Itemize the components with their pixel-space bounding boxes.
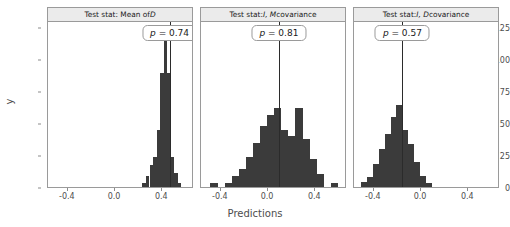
x-axis-tick-mark <box>114 188 115 191</box>
strip-suffix: covariance <box>276 10 316 19</box>
plot-area: p = 0.81 <box>200 22 346 188</box>
p-value-text: = 0.74 <box>156 28 189 38</box>
facet-strip-title: Test stat: I, M covariance <box>200 7 346 22</box>
p-value-label: p = 0.74 <box>142 25 193 41</box>
x-axis-tick-label: 0.4 <box>461 192 474 201</box>
observed-statistic-line <box>402 22 403 187</box>
x-axis-tick-label: 0.0 <box>261 192 274 201</box>
strip-prefix: Test stat: Mean of <box>84 10 150 19</box>
histogram-bar <box>267 115 274 187</box>
histogram-bars <box>354 22 498 187</box>
y-axis-tick-mark <box>38 92 41 93</box>
histogram-bar <box>178 183 182 187</box>
histogram-bars <box>201 22 345 187</box>
facet-panel: Test stat: I, D covariancep = 0.57 <box>353 7 499 188</box>
p-value-text: = 0.81 <box>265 28 298 38</box>
histogram-bar <box>331 183 338 187</box>
observed-statistic-line <box>170 22 171 187</box>
x-axis-tick-mark <box>373 188 374 191</box>
strip-statistic-symbol: I, D <box>416 10 429 19</box>
y-axis-tick-mark <box>38 188 41 189</box>
p-value-label: p = 0.57 <box>375 25 430 41</box>
histogram-bar <box>426 183 432 187</box>
y-axis-label: y <box>4 95 15 109</box>
x-axis-tick-label: -0.4 <box>59 192 75 201</box>
x-axis-tick-mark <box>314 188 315 191</box>
y-axis-tick-mark <box>38 60 41 61</box>
p-value-label: p = 0.81 <box>251 25 306 41</box>
figure-histogram-facets: y Predictions 0255075100125 Test stat: M… <box>0 0 510 227</box>
x-axis-tick-mark <box>220 188 221 191</box>
facet-panel: Test stat: I, M covariancep = 0.81 <box>200 7 346 188</box>
facet-panel: Test stat: Mean of Dp = 0.74 <box>47 7 193 188</box>
histogram-bar <box>288 136 295 187</box>
histogram-bar <box>260 126 267 187</box>
plot-area: p = 0.57 <box>353 22 499 188</box>
p-value-text: = 0.57 <box>389 28 422 38</box>
x-axis-tick-label: -0.4 <box>365 192 381 201</box>
strip-statistic-symbol: I, M <box>263 10 276 19</box>
histogram-bar <box>281 130 288 187</box>
facet-strip-title: Test stat: Mean of D <box>47 7 193 22</box>
x-axis: -0.40.00.4 <box>200 188 346 202</box>
histogram-bar <box>253 143 260 187</box>
y-axis-tick-mark <box>38 28 41 29</box>
observed-statistic-line <box>279 22 280 187</box>
facet-strip-title: Test stat: I, D covariance <box>353 7 499 22</box>
y-axis-tick-mark <box>38 124 41 125</box>
histogram-bar <box>274 108 281 187</box>
histogram-bar <box>225 183 232 187</box>
x-axis-label: Predictions <box>0 208 510 219</box>
histogram-bar <box>310 159 317 187</box>
x-axis-tick-mark <box>467 188 468 191</box>
x-axis: -0.40.00.4 <box>47 188 193 202</box>
histogram-bar <box>246 157 253 187</box>
strip-statistic-symbol: D <box>150 10 156 19</box>
x-axis-tick-label: 0.4 <box>155 192 168 201</box>
x-axis-tick-label: 0.0 <box>108 192 121 201</box>
x-axis-tick-mark <box>420 188 421 191</box>
strip-suffix: covariance <box>429 10 469 19</box>
x-axis-tick-label: -0.4 <box>212 192 228 201</box>
y-axis-tick-mark <box>38 156 41 157</box>
histogram-bar <box>303 139 310 187</box>
x-axis-tick-label: 0.4 <box>308 192 321 201</box>
x-axis-tick-mark <box>267 188 268 191</box>
x-axis: -0.40.00.4 <box>353 188 499 202</box>
x-axis-tick-mark <box>161 188 162 191</box>
plot-area: p = 0.74 <box>47 22 193 188</box>
x-axis-tick-mark <box>67 188 68 191</box>
strip-prefix: Test stat: <box>383 10 417 19</box>
strip-prefix: Test stat: <box>229 10 263 19</box>
histogram-bar <box>317 174 324 187</box>
histogram-bar <box>210 183 217 187</box>
histogram-bar <box>239 169 246 187</box>
histogram-bar <box>295 108 302 187</box>
x-axis-tick-label: 0.0 <box>414 192 427 201</box>
histogram-bar <box>232 176 239 187</box>
